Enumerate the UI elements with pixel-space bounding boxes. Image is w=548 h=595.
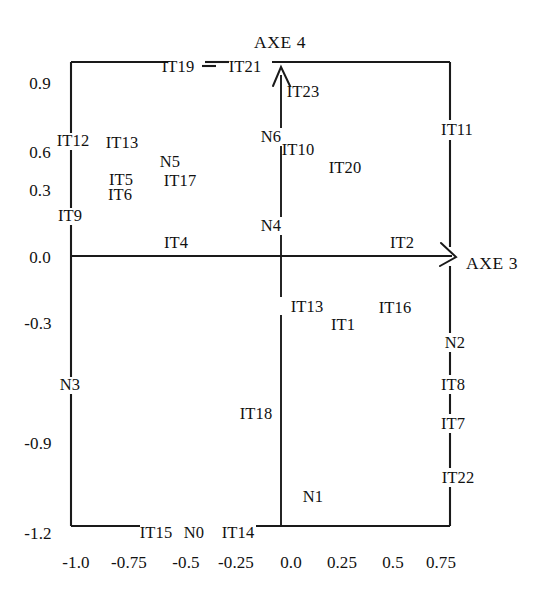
x-tick-label: 0.75: [426, 554, 456, 571]
point-label: N1: [303, 489, 323, 506]
y-tick-label: 0.9: [29, 75, 51, 92]
point-label: IT7: [441, 416, 465, 433]
y-tick-label: -0.9: [24, 435, 51, 452]
point-label: IT8: [441, 377, 465, 394]
point-label: IT2: [390, 235, 414, 252]
point-label: IT23: [287, 84, 319, 101]
point-label: IT11: [441, 122, 473, 139]
point-label: IT20: [329, 160, 361, 177]
point-label: IT21: [229, 59, 261, 76]
point-label: IT12: [57, 133, 89, 150]
x-tick-label: 0.25: [327, 554, 357, 571]
y-tick-label: -0.3: [24, 315, 51, 332]
point-label: IT10: [282, 142, 314, 159]
y-tick-label: 0.3: [29, 182, 51, 199]
axis-3-arrow-icon: [440, 243, 456, 266]
point-label: IT4: [164, 235, 188, 252]
x-tick-label: 0.0: [280, 554, 302, 571]
point-label: IT18: [240, 406, 272, 423]
point-label: IT1: [331, 317, 355, 334]
point-label: IT19: [162, 59, 194, 76]
point-label: IT17: [164, 173, 196, 190]
x-tick-label: -0.75: [111, 554, 147, 571]
y-tick-label: 0.6: [29, 144, 51, 161]
x-tick-label: 0.5: [382, 554, 404, 571]
y-tick-label: -1.2: [24, 525, 51, 542]
x-tick-label: -0.5: [172, 554, 199, 571]
axis-3-title: AXE 3: [466, 255, 518, 273]
plot-axes-svg: [0, 0, 548, 595]
point-label: IT6: [108, 187, 132, 204]
point-label: IT13: [106, 135, 138, 152]
point-label: N3: [60, 377, 80, 394]
point-label: IT13: [291, 299, 323, 316]
point-label: N4: [261, 218, 281, 235]
point-label: N5: [160, 154, 180, 171]
point-label: N0: [184, 525, 204, 542]
scatter-plot-figure: IT19IT21IT23IT11IT12IT13N5N6IT10IT20IT5I…: [0, 0, 548, 595]
x-tick-label: -0.25: [218, 554, 254, 571]
y-tick-label: 0.0: [29, 249, 51, 266]
point-label: N6: [261, 129, 281, 146]
point-label: IT14: [222, 525, 254, 542]
axis-4-title: AXE 4: [254, 34, 306, 52]
point-label: IT9: [58, 208, 82, 225]
point-label: IT16: [379, 300, 411, 317]
x-tick-label: -1.0: [62, 554, 89, 571]
point-label: IT22: [442, 470, 474, 487]
point-label: IT15: [140, 525, 172, 542]
point-label: N2: [445, 335, 465, 352]
